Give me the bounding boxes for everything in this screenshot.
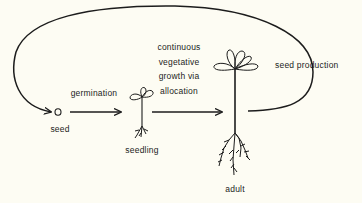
growth-label-line-3: growth via (157, 69, 200, 84)
growth-label-line-1: continuous (157, 40, 200, 55)
seed-label: seed (50, 122, 69, 137)
germination-label: germination (71, 86, 118, 101)
seed-production-label: seed production (275, 58, 339, 73)
seedling-label: seedling (125, 143, 158, 158)
life-cycle-diagram: germination seed seedling continuous veg… (0, 0, 362, 203)
growth-label-line-2: vegetative (157, 55, 200, 70)
growth-label-line-4: allocation (157, 84, 200, 99)
seed-icon (55, 109, 61, 116)
diagram-drawing (0, 0, 362, 203)
adult-label: adult (225, 182, 244, 197)
growth-label: continuous vegetative growth via allocat… (157, 40, 200, 98)
seedling-icon (130, 87, 153, 138)
